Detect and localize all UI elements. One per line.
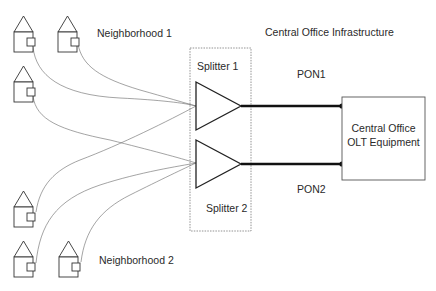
house-icon [14,66,35,102]
olt-label-line1: Central Office [342,123,425,134]
splitter-1-label: Splitter 1 [197,61,238,72]
fiber-n1-house-a [33,47,196,106]
house-icon [14,191,35,227]
fiber-n1-house-c [33,96,196,163]
fiber-n1-house-b [78,44,196,106]
olt-label-line2: OLT Equipment [342,137,425,148]
house-icon [14,241,35,277]
splitter-2-label: Splitter 2 [206,203,247,214]
pon2-label: PON2 [297,184,326,195]
neighborhood-1-label: Neighborhood 1 [97,28,172,39]
house-icon [14,16,35,52]
central-office-title: Central Office Infrastructure [265,27,394,38]
fiber-n2-house-c [81,163,196,262]
house-icon [58,16,79,52]
houses [14,16,80,277]
pon1-label: PON1 [297,69,326,80]
drop-fibers [33,44,196,263]
fiber-n2-house-a [36,106,196,212]
fiber-n2-house-b [36,163,196,263]
pon-network-diagram: Neighborhood 1 Neighborhood 2 Central Of… [0,0,436,291]
neighborhood-2-label: Neighborhood 2 [99,255,174,266]
triangle-splitter-icon [196,82,241,130]
triangle-splitter-icon [196,140,241,188]
house-icon [59,241,80,277]
